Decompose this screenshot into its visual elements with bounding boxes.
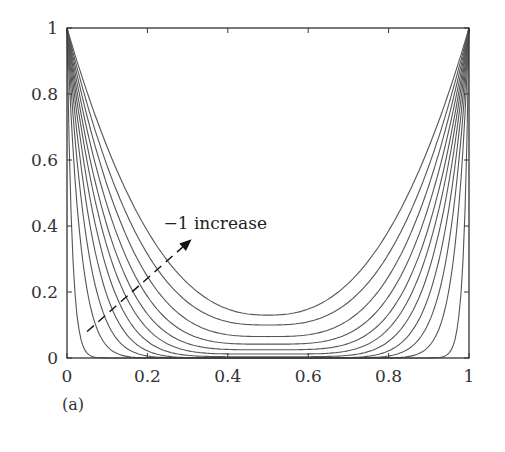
- y-tick-label: 1: [47, 18, 58, 38]
- series-line-curve-1: [67, 28, 469, 315]
- x-tick-label: 0.4: [214, 366, 241, 386]
- y-tick-label: 0.6: [31, 150, 58, 170]
- x-tick-label: 0: [62, 366, 73, 386]
- panel-label: (a): [62, 395, 84, 414]
- y-tick-label: 0: [47, 348, 58, 368]
- series-line-curve-6: [67, 28, 469, 354]
- series-line-curve-3: [67, 28, 469, 337]
- y-axis: 00.20.40.60.81: [31, 18, 469, 368]
- x-tick-label: 0.2: [134, 366, 161, 386]
- x-tick-label: 1: [464, 366, 475, 386]
- x-tick-label: 0.6: [295, 366, 322, 386]
- annotation-text: −1 increase: [163, 213, 266, 233]
- curve-family: [67, 28, 469, 358]
- y-tick-label: 0.2: [31, 282, 58, 302]
- y-tick-label: 0.4: [31, 216, 58, 236]
- line-chart: 00.20.40.60.81 00.20.40.60.81 −1 increas…: [0, 0, 505, 452]
- series-line-curve-5: [67, 28, 469, 350]
- x-tick-label: 0.8: [375, 366, 402, 386]
- y-tick-label: 0.8: [31, 84, 58, 104]
- dashed-arrow: [87, 247, 183, 331]
